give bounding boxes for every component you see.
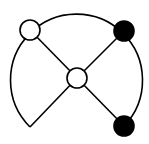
- graph-diagram: [0, 0, 149, 144]
- node-top-right-filled: [114, 21, 134, 41]
- node-top-left-open: [20, 20, 40, 40]
- node-center-open: [67, 68, 87, 88]
- node-bottom-right-filled: [114, 116, 134, 136]
